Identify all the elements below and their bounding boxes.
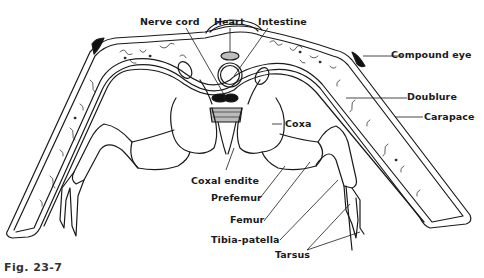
intestine-shape [218, 63, 242, 87]
label-doublure: Doublure [407, 92, 457, 102]
right-leg [262, 134, 323, 170]
compound-eye-right [352, 52, 365, 67]
label-coxa: Coxa [285, 119, 311, 129]
label-carapace: Carapace [424, 112, 475, 122]
left-coxa [171, 98, 217, 153]
heart-shape [221, 52, 239, 60]
label-tarsus: Tarsus [275, 250, 310, 260]
figure-caption: Fig. 23-7 [4, 261, 62, 274]
label-femur: Femur [230, 215, 264, 225]
label-intestine: Intestine [258, 17, 307, 27]
label-nerve-cord: Nerve cord [140, 17, 200, 27]
label-prefemur: Prefemur [211, 193, 262, 203]
left-leg [131, 130, 190, 170]
label-heart: Heart [214, 17, 245, 27]
compound-eye-left [92, 38, 104, 54]
label-coxal-endite: Coxal endite [191, 176, 259, 186]
label-compound-eye: Compound eye [391, 50, 472, 60]
label-tibia-patella: Tibia-patella [211, 235, 280, 245]
right-coxa [237, 98, 284, 153]
